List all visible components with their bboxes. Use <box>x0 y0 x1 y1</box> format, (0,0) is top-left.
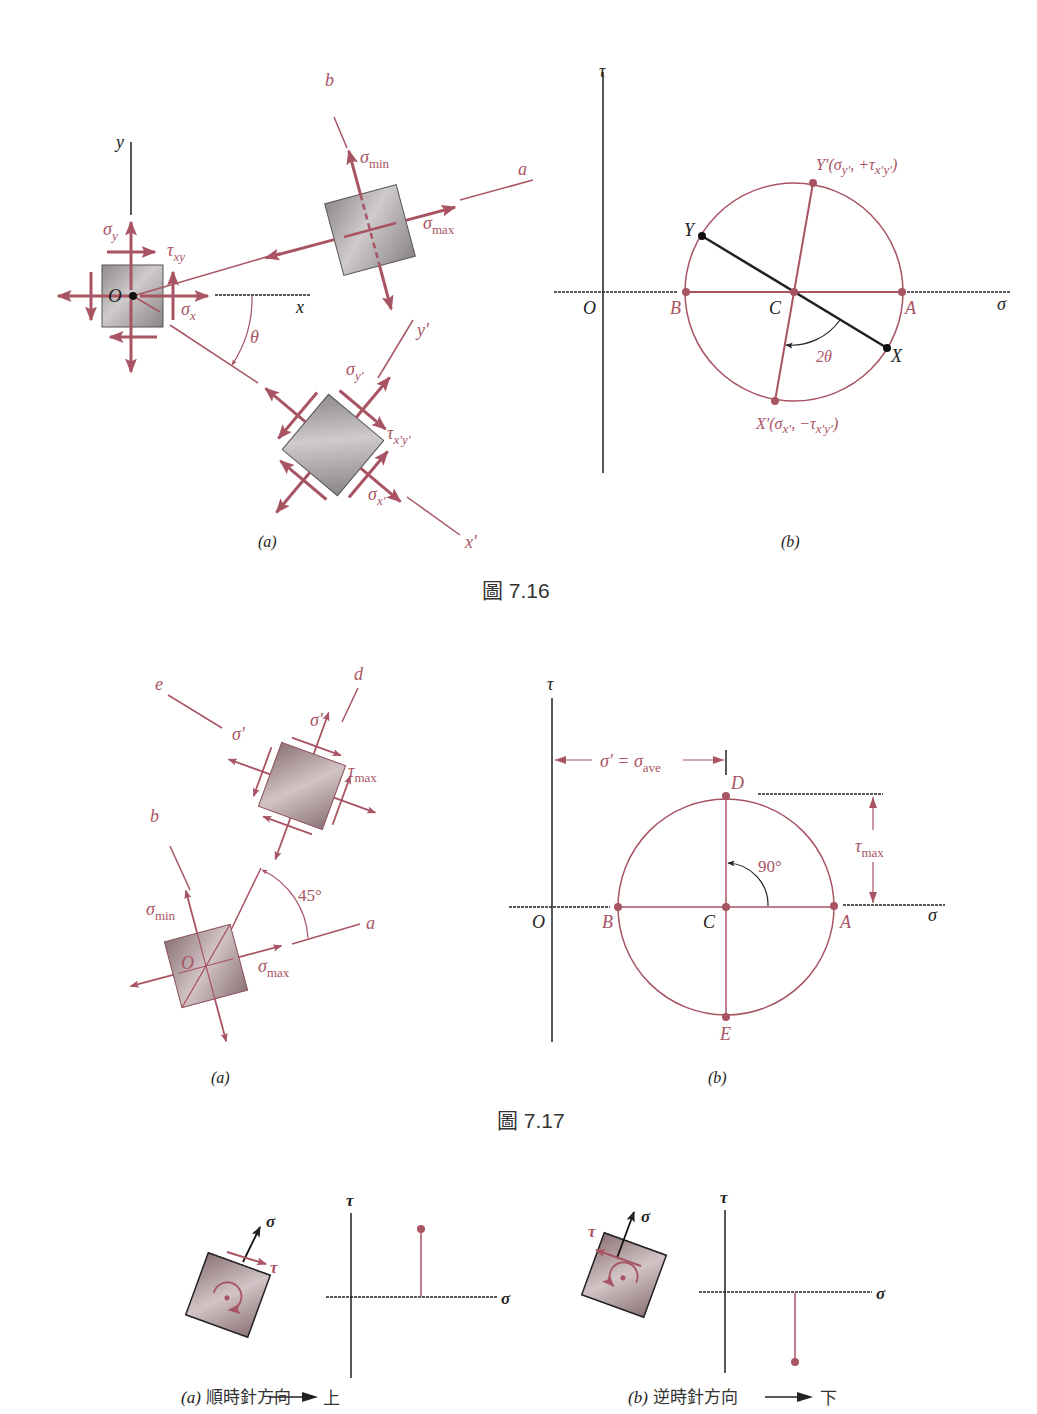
figure-canvas: y x O b a y′ x′ θ σy τxy σx σmin σmax σy… <box>0 0 1037 1414</box>
point-d-label: D <box>730 773 744 793</box>
origin-label: O <box>108 285 122 306</box>
point-b <box>682 288 690 296</box>
tau-max-dimension-label: τmax <box>855 836 884 860</box>
sigma-label: σ <box>266 1212 276 1231</box>
panel-b-label: (b) <box>781 533 800 551</box>
theta-label: θ <box>250 327 259 347</box>
point-y-prime-label: Y′(σy′, +τx′y′) <box>816 156 897 177</box>
panel-a-label: (a) <box>258 533 277 551</box>
sigma-prime-d-label: σ′ <box>310 710 324 730</box>
element-clockwise <box>186 1253 271 1338</box>
sigma-max-label: σmax <box>258 956 290 980</box>
sigma-label: σ <box>641 1207 651 1226</box>
origin-point <box>129 292 137 300</box>
tau-label: τ <box>588 1222 596 1241</box>
point-c <box>790 288 798 296</box>
point-x-prime-label: X′(σx′, −τx′y′) <box>755 415 838 436</box>
sigma-axis-label: σ <box>997 294 1007 314</box>
point-e <box>722 1013 730 1021</box>
counterclockwise-text: 逆時針方向 <box>653 1387 738 1407</box>
arrow-right-icon <box>797 1392 813 1402</box>
tau-axis-label: τ <box>720 1188 728 1207</box>
point-c-label: C <box>769 298 782 318</box>
sigma-axis-label: σ <box>876 1284 886 1303</box>
angle-45-label: 45° <box>298 886 322 905</box>
angle-90-label: 90° <box>758 857 782 876</box>
axis-x-prime-label: x′ <box>464 532 478 552</box>
sigma-max-label: σmax <box>423 213 455 237</box>
fig716-panel-b-mohr-circle <box>554 72 1011 473</box>
sigma-axis-label: σ <box>928 905 938 925</box>
fig717-panel-b-mohr-circle <box>509 698 945 1042</box>
tau-x-prime-y-prime-label: τx′y′ <box>387 423 411 447</box>
point-c-label: C <box>703 912 716 932</box>
point-e-label: E <box>719 1024 731 1044</box>
point-b-label: B <box>602 912 613 932</box>
sigma-y-label: σy <box>103 219 118 243</box>
tau-axis-label: τ <box>346 1191 354 1210</box>
clockwise-text: 順時針方向 <box>206 1387 291 1407</box>
arrow-right-icon <box>302 1392 318 1402</box>
point-y-label: Y <box>684 220 696 240</box>
fig716-panel-a <box>58 117 533 569</box>
tau-max-label: τmax <box>348 761 377 785</box>
sigma-min-label: σmin <box>146 899 176 923</box>
point-a-label: A <box>904 298 917 318</box>
axis-a-label: a <box>518 159 527 179</box>
sigma-x-label: σx <box>181 299 196 323</box>
figure-7-16-caption: 圖 7.16 <box>482 579 550 602</box>
panel-label: (b) <box>628 1388 648 1407</box>
tau-axis-label: τ <box>599 61 606 81</box>
axis-a-label: a <box>366 913 375 933</box>
sign-convention-a <box>186 1213 497 1402</box>
point-a-label: A <box>839 912 852 932</box>
axis-e-label: e <box>155 674 163 694</box>
point-y <box>698 232 706 240</box>
sigma-min-label: σmin <box>360 147 390 171</box>
stress-point-below <box>791 1358 799 1366</box>
x-axis-label: x <box>295 297 304 317</box>
element-counterclockwise <box>582 1233 667 1318</box>
panel-label: (a) <box>181 1388 201 1407</box>
figure-7-17-caption: 圖 7.17 <box>497 1109 565 1132</box>
point-b <box>614 903 622 911</box>
panel-b-label: (b) <box>708 1069 727 1087</box>
axis-d-label: d <box>354 664 364 684</box>
point-x-label: X <box>890 346 903 366</box>
axis-b-label: b <box>150 806 159 826</box>
sigma-ave-dimension-label: σ′ = σave <box>600 751 661 775</box>
rotated-stress-element <box>282 394 383 495</box>
sign-convention-b <box>582 1210 872 1402</box>
point-x <box>883 344 891 352</box>
point-x-prime <box>771 397 779 405</box>
axis-b-label: b <box>325 70 334 90</box>
point-b-label: B <box>670 298 681 318</box>
point-c <box>722 903 730 911</box>
panel-a-label: (a) <box>211 1069 230 1087</box>
max-shear-element <box>258 742 345 829</box>
tau-label: τ <box>270 1258 278 1277</box>
two-theta-label: 2θ <box>816 348 832 365</box>
origin-label: O <box>583 298 596 318</box>
tau-xy-label: τxy <box>167 240 185 264</box>
point-d <box>722 792 730 800</box>
point-y-prime <box>809 179 817 187</box>
axis-y-prime-label: y′ <box>415 320 430 340</box>
y-axis-label: y <box>114 132 124 152</box>
sigma-prime-e-label: σ′ <box>232 724 246 744</box>
point-a <box>830 902 838 910</box>
origin-label: O <box>532 912 545 932</box>
point-a <box>898 288 906 296</box>
fig717-panel-a <box>110 686 402 1062</box>
sigma-axis-label: σ <box>501 1289 511 1308</box>
stress-point-above <box>417 1225 425 1233</box>
result-down-text: 下 <box>820 1388 837 1408</box>
sigma-y-prime-label: σy′ <box>346 359 364 383</box>
tau-axis-label: τ <box>547 674 554 694</box>
result-up-text: 上 <box>323 1388 340 1408</box>
origin-label: O <box>181 953 194 973</box>
